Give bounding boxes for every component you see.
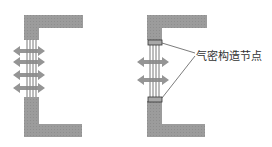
left-wall-top (24, 15, 83, 40)
seal-node-top (148, 40, 162, 45)
right-wall-bottom (147, 101, 205, 137)
right-wall-top (147, 15, 207, 40)
right-panel (137, 15, 207, 137)
double-arrow-icon (13, 46, 45, 56)
double-arrow-icon (13, 70, 45, 80)
left-air-leak-arrows (13, 46, 45, 93)
callout-lines (162, 43, 195, 98)
airtight-node-label: 气密构造节点 (196, 47, 262, 63)
airtight-diagram (0, 0, 272, 147)
seal-node-bottom (148, 97, 162, 102)
left-wall-bottom (24, 97, 82, 137)
right-window-frame (150, 45, 159, 97)
left-panel (13, 15, 83, 137)
double-arrow-icon (13, 83, 45, 93)
double-arrow-icon (13, 57, 45, 67)
